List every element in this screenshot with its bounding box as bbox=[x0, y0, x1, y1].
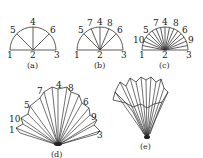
label-5: 5 bbox=[78, 25, 84, 35]
label-4: 4 bbox=[162, 17, 168, 27]
label-7: 7 bbox=[87, 18, 93, 28]
label-7: 7 bbox=[37, 86, 43, 96]
label-6: 6 bbox=[182, 25, 188, 35]
label-9: 9 bbox=[188, 35, 194, 45]
caption-d: (d) bbox=[51, 150, 62, 158]
label-10: 10 bbox=[133, 35, 145, 45]
label-1: 1 bbox=[9, 125, 15, 135]
panel-e: (e) bbox=[113, 77, 168, 151]
panel-b: 1 2 3 4 5 6 7 8 (b) bbox=[74, 17, 127, 70]
label-9: 9 bbox=[91, 112, 97, 122]
label-1: 1 bbox=[139, 50, 145, 60]
caption-a: (a) bbox=[27, 61, 38, 70]
label-2: 2 bbox=[30, 50, 36, 60]
label-1: 1 bbox=[7, 50, 13, 60]
label-3: 3 bbox=[186, 50, 192, 60]
label-4: 4 bbox=[30, 17, 36, 27]
label-2: 2 bbox=[97, 50, 103, 60]
label-5: 5 bbox=[10, 25, 16, 35]
label-4: 4 bbox=[56, 80, 62, 90]
label-2: 2 bbox=[162, 50, 168, 60]
label-8: 8 bbox=[173, 18, 179, 28]
label-10: 10 bbox=[9, 114, 21, 124]
label-3: 3 bbox=[97, 130, 103, 140]
label-5: 5 bbox=[24, 100, 30, 110]
label-3: 3 bbox=[121, 50, 127, 60]
label-4: 4 bbox=[97, 17, 103, 27]
label-6: 6 bbox=[83, 97, 89, 107]
label-6: 6 bbox=[117, 25, 123, 35]
folding-diagram: 1 2 3 4 5 6 (a) 1 2 3 4 5 6 7 8 (b) bbox=[0, 0, 203, 158]
panel-a: 1 2 3 4 5 6 (a) bbox=[7, 17, 60, 70]
label-5: 5 bbox=[143, 25, 149, 35]
label-8: 8 bbox=[68, 83, 74, 93]
panel-d: 1 3 4 5 6 7 8 9 10 (d) bbox=[9, 80, 103, 158]
caption-b: (b) bbox=[94, 61, 105, 70]
label-3: 3 bbox=[54, 50, 60, 60]
label-7: 7 bbox=[153, 18, 159, 28]
caption-e: (e) bbox=[140, 142, 151, 151]
panel-c: 1 2 3 4 5 6 7 8 9 10 (c) bbox=[133, 17, 194, 70]
caption-c: (c) bbox=[159, 61, 170, 70]
label-8: 8 bbox=[107, 18, 113, 28]
label-1: 1 bbox=[74, 50, 80, 60]
label-6: 6 bbox=[50, 25, 56, 35]
